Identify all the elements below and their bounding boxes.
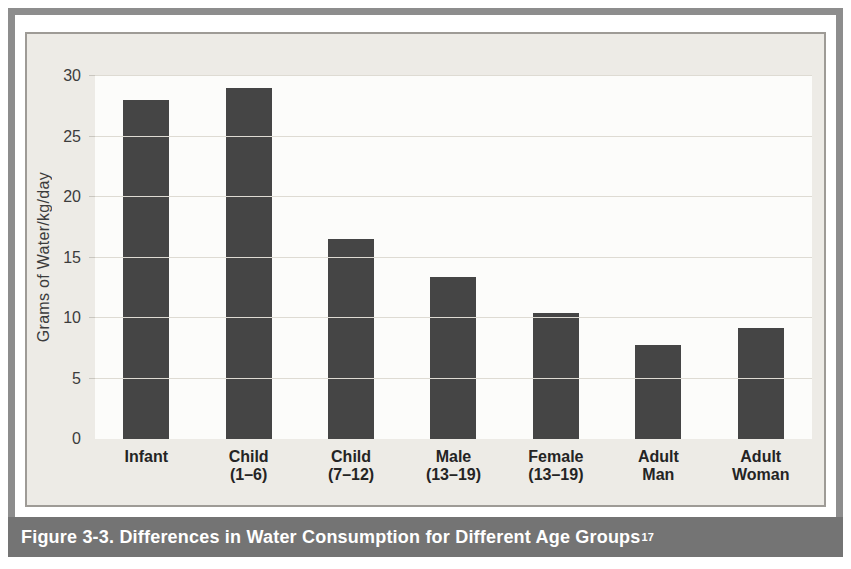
bars-group <box>95 76 812 439</box>
page: Grams of Water/kg/day 051015202530 Infan… <box>0 0 851 569</box>
bar-slot-5 <box>607 76 709 439</box>
y-tick-label-5: 5 <box>72 370 81 388</box>
bar-female-13-19 <box>533 313 579 439</box>
figure-frame: Grams of Water/kg/day 051015202530 Infan… <box>8 8 843 517</box>
y-tickmark-20 <box>89 196 95 197</box>
x-category-label-4: Female(13–19) <box>505 443 607 493</box>
bar-child-7-12 <box>328 239 374 439</box>
chart-panel: Grams of Water/kg/day 051015202530 Infan… <box>25 32 826 507</box>
y-tickmark-10 <box>89 317 95 318</box>
plot-area <box>95 76 812 439</box>
y-tick-label-15: 15 <box>63 249 81 267</box>
x-axis-labels: InfantChild(1–6)Child(7–12)Male(13–19)Fe… <box>95 443 812 493</box>
y-tickmark-15 <box>89 257 95 258</box>
bar-child-1-6 <box>226 88 272 439</box>
y-tick-label-30: 30 <box>63 67 81 85</box>
bar-slot-3 <box>402 76 504 439</box>
y-tickmark-25 <box>89 136 95 137</box>
x-category-label-6: AdultWoman <box>710 443 812 493</box>
gridline-30 <box>95 75 812 76</box>
x-category-label-3: Male(13–19) <box>402 443 504 493</box>
y-tick-label-20: 20 <box>63 188 81 206</box>
bar-slot-2 <box>300 76 402 439</box>
gridline-10 <box>95 317 812 318</box>
x-category-label-0: Infant <box>95 443 197 493</box>
y-tick-label-0: 0 <box>72 430 81 448</box>
bar-adult-woman <box>738 328 784 439</box>
y-tick-label-10: 10 <box>63 309 81 327</box>
bar-slot-0 <box>95 76 197 439</box>
y-axis-ticks: 051015202530 <box>27 76 89 439</box>
bar-slot-1 <box>197 76 299 439</box>
bar-male-13-19 <box>430 277 476 439</box>
caption-text: Figure 3-3. Differences in Water Consump… <box>21 527 641 548</box>
y-tickmark-30 <box>89 75 95 76</box>
y-tickmark-5 <box>89 378 95 379</box>
bar-infant <box>123 100 169 439</box>
figure-caption: Figure 3-3. Differences in Water Consump… <box>8 517 843 557</box>
gridline-5 <box>95 378 812 379</box>
x-category-label-2: Child(7–12) <box>300 443 402 493</box>
bar-slot-4 <box>505 76 607 439</box>
x-category-label-5: AdultMan <box>607 443 709 493</box>
gridline-25 <box>95 136 812 137</box>
gridline-20 <box>95 196 812 197</box>
y-tick-label-25: 25 <box>63 128 81 146</box>
bar-adult-man <box>635 345 681 439</box>
x-category-label-1: Child(1–6) <box>197 443 299 493</box>
gridline-15 <box>95 257 812 258</box>
bar-slot-6 <box>710 76 812 439</box>
